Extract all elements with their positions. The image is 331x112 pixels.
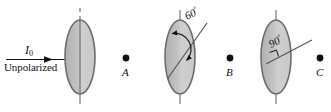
- point-a-label: A: [122, 67, 129, 78]
- unpolarized-label: Unpolarized: [4, 62, 57, 73]
- incident-intensity-subscript: 0: [29, 49, 33, 58]
- polarizer-figure: I0 Unpolarized 60° 90° A B C: [0, 0, 331, 112]
- polarizer-3-disc: [261, 20, 291, 94]
- point-c-label: C: [316, 67, 323, 78]
- point-b-dot: [227, 55, 234, 62]
- incident-intensity-label: I0: [25, 44, 33, 58]
- figure-canvas: [0, 0, 331, 112]
- polarizer-1-group: [65, 8, 95, 104]
- point-a-dot: [123, 55, 130, 62]
- point-b-label: B: [226, 67, 233, 78]
- polarizer-3-group: [261, 10, 312, 104]
- point-c-dot: [317, 55, 324, 62]
- polarizer-2-group: [165, 10, 207, 104]
- polarizer-2-disc: [165, 20, 195, 94]
